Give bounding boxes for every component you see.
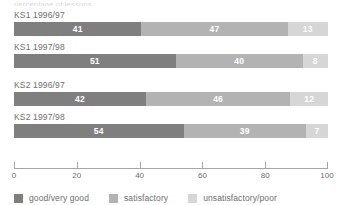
x-axis-tick [77,162,78,169]
bar-segment-value: 39 [240,127,250,136]
stacked-bar: 54397 [14,124,328,138]
x-axis-tick [14,162,15,169]
x-axis-tick-label: 40 [135,171,144,181]
bar-segment: 51 [14,54,176,68]
legend-label: unsatisfactory/poor [203,193,277,203]
legend-label: good/very good [29,193,89,203]
bar-segment-value: 12 [304,95,314,104]
bar-segment: 41 [14,22,141,36]
bar-segment: 46 [146,92,290,106]
bar-segment-value: 41 [73,25,83,34]
bar-segment-value: 7 [315,127,320,136]
legend-label: satisfactory [124,193,168,203]
chart-legend: good/very goodsatisfactoryunsatisfactory… [14,191,297,205]
bar-segment: 39 [184,124,306,138]
x-axis-line [14,168,328,169]
stacked-bar: 424612 [14,92,328,106]
x-axis-tick [202,162,203,169]
x-axis-tick [265,162,266,169]
bar-segment-value: 46 [213,95,223,104]
bar-segment-value: 42 [75,95,85,104]
bar-segment-value: 40 [234,57,244,66]
bar-segment: 13 [288,22,328,36]
stacked-bar: 414713 [14,22,328,36]
legend-swatch-icon [109,194,118,203]
bar-category-label: KS1 1997/98 [14,42,65,52]
bar-category-label: KS2 1996/97 [14,80,65,90]
plot-area: KS1 1996/97414713KS1 1997/9851408KS2 199… [0,10,343,205]
bar-segment: 8 [303,54,328,68]
bar-segment-value: 54 [94,127,104,136]
x-axis-tick-label: 20 [72,171,81,181]
stacked-bar: 51408 [14,54,328,68]
bar-segment: 47 [141,22,287,36]
x-axis-tick-label: 80 [261,171,270,181]
x-axis-tick [327,162,328,169]
x-axis-tick-label: 0 [12,171,16,181]
bar-segment-value: 51 [90,57,100,66]
legend-item: satisfactory [109,193,168,203]
bar-segment: 54 [14,124,184,138]
bar-category-label: KS2 1997/98 [14,112,65,122]
bar-segment: 12 [290,92,328,106]
clipped-top-text: percentage of lessons [14,0,314,6]
bar-segment: 42 [14,92,146,106]
x-axis-tick [140,162,141,169]
bar-segment: 7 [306,124,328,138]
legend-swatch-icon [188,194,197,203]
bar-category-label: KS1 1996/97 [14,10,65,20]
x-axis: 020406080100 [14,162,328,182]
bar-segment-value: 8 [313,57,318,66]
stacked-bar-chart: percentage of lessons KS1 1996/97414713K… [0,0,343,205]
x-axis-tick-label: 100 [320,171,333,181]
legend-swatch-icon [14,194,23,203]
x-axis-tick-label: 60 [198,171,207,181]
bar-segment-value: 47 [210,25,220,34]
bar-segment-value: 13 [303,25,313,34]
bar-segment: 40 [176,54,303,68]
legend-item: unsatisfactory/poor [188,193,277,203]
legend-item: good/very good [14,193,89,203]
